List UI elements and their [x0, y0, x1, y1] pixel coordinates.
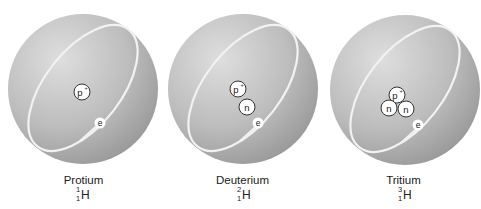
- element-symbol: H: [403, 188, 412, 202]
- svg-text:+: +: [399, 88, 402, 94]
- deuterium-sphere: p + n e: [162, 0, 323, 170]
- element-symbol: H: [81, 188, 90, 202]
- proton: p +: [74, 84, 90, 100]
- neutron: n: [398, 101, 414, 117]
- atomic-number: 1: [237, 194, 241, 203]
- svg-text:n: n: [386, 103, 391, 114]
- mass-number: 2: [237, 185, 241, 194]
- neutron: n: [239, 99, 255, 115]
- svg-text:p: p: [233, 84, 238, 95]
- atomic-number: 1: [76, 194, 80, 203]
- isotope-symbol: 3 1 H: [398, 188, 412, 202]
- svg-text:p: p: [77, 87, 82, 98]
- isotope-symbol: 1 1 H: [76, 188, 90, 202]
- electron: e: [95, 118, 106, 129]
- atom-name: Deuterium: [162, 174, 323, 186]
- tritium-sphere: p + n n e: [323, 0, 481, 170]
- proton: p +: [230, 81, 246, 97]
- svg-text:+: +: [84, 85, 87, 91]
- mass-number: 1: [76, 185, 80, 194]
- svg-text:n: n: [403, 104, 408, 115]
- atom-deuterium: p + n e Deuterium 2 1 H: [162, 0, 323, 209]
- svg-text:p: p: [392, 90, 397, 101]
- svg-text:e: e: [98, 118, 103, 128]
- mass-number: 3: [398, 185, 402, 194]
- atom-protium: p + e Protium 1 1 H: [3, 0, 164, 209]
- neutron: n: [381, 100, 397, 116]
- protium-sphere: p + e: [3, 0, 164, 170]
- svg-text:e: e: [416, 120, 421, 130]
- atom-tritium: p + n n e Tritium 3 1 H: [323, 0, 481, 209]
- svg-text:+: +: [240, 82, 243, 88]
- svg-text:e: e: [256, 118, 261, 128]
- atom-name: Protium: [3, 174, 164, 186]
- electron: e: [253, 118, 264, 129]
- electron: e: [413, 120, 424, 131]
- isotope-symbol: 2 1 H: [237, 188, 251, 202]
- svg-text:n: n: [244, 102, 249, 113]
- atomic-number: 1: [398, 194, 402, 203]
- element-symbol: H: [242, 188, 251, 202]
